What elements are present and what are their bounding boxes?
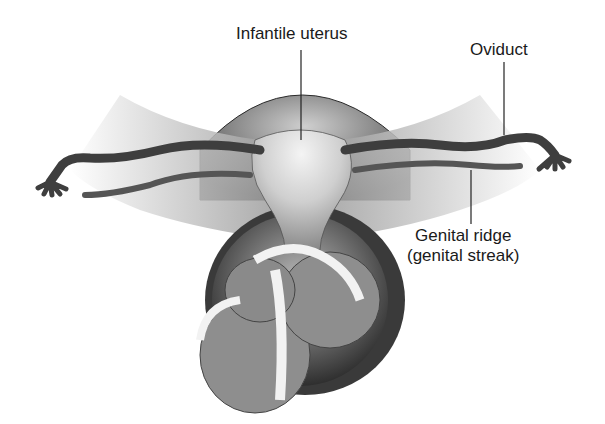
label-genital-ridge-line1: Genital ridge xyxy=(407,226,519,246)
label-infantile-uterus: Infantile uterus xyxy=(236,24,348,44)
label-genital-ridge: Genital ridge (genital streak) xyxy=(407,226,519,266)
anatomy-illustration xyxy=(0,0,605,424)
label-genital-ridge-line2: (genital streak) xyxy=(407,246,519,266)
label-oviduct: Oviduct xyxy=(470,40,528,60)
